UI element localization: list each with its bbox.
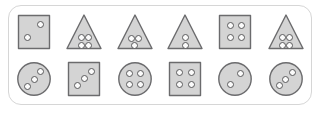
shape-cell-square-4 (214, 11, 256, 53)
shape-cell-circle-2 (214, 58, 256, 100)
circle-icon (114, 58, 156, 100)
shape-cell-circle-3 (13, 58, 55, 100)
square-icon (13, 11, 55, 53)
shape-cell-square-3 (63, 58, 105, 100)
shape-cell-square-2 (13, 11, 55, 53)
shape-cell-triangle-3 (114, 11, 156, 53)
circle-icon (265, 58, 307, 100)
triangle-icon (265, 11, 307, 53)
triangle-icon (63, 11, 105, 53)
square-icon (164, 58, 206, 100)
shape-pattern-panel (8, 5, 312, 105)
triangle-icon (164, 11, 206, 53)
shape-cell-triangle-2 (164, 11, 206, 53)
shape-cell-square-4 (164, 58, 206, 100)
square-icon (63, 58, 105, 100)
triangle-icon (114, 11, 156, 53)
shape-cell-circle-4 (114, 58, 156, 100)
screenshot-stage (0, 0, 324, 116)
circle-icon (13, 58, 55, 100)
bottom-row (9, 56, 311, 102)
top-row (9, 9, 311, 55)
shape-cell-triangle-4 (63, 11, 105, 53)
shape-cell-triangle-4 (265, 11, 307, 53)
square-icon (214, 11, 256, 53)
shape-cell-circle-3 (265, 58, 307, 100)
circle-icon (214, 58, 256, 100)
